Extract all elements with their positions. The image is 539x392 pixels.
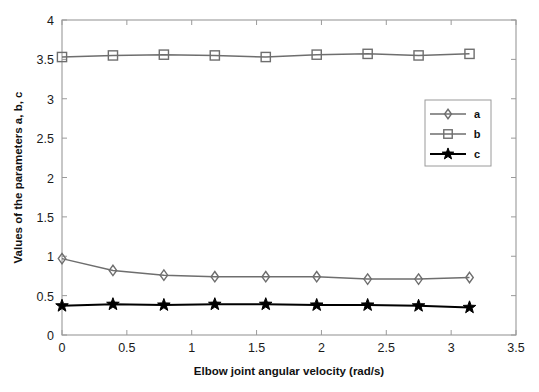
legend-label-c: c	[474, 148, 480, 160]
marker-star	[361, 298, 374, 310]
marker-star	[209, 298, 222, 310]
x-tick-label: 0.5	[118, 341, 135, 355]
series-c	[56, 298, 476, 313]
x-tick-label: 2	[318, 341, 325, 355]
chart-legend: abc	[425, 100, 491, 166]
line-chart: 00.511.522.533.500.511.522.533.54Elbow j…	[0, 0, 539, 392]
legend-label-b: b	[474, 128, 481, 140]
y-tick-label: 0	[47, 329, 54, 343]
series-line-b	[62, 54, 470, 57]
marker-star	[259, 298, 272, 310]
x-axis-title: Elbow joint angular velocity (rad/s)	[194, 365, 385, 377]
x-tick-label: 1.5	[248, 341, 265, 355]
marker-star	[158, 298, 171, 310]
series-b	[57, 49, 474, 61]
series-a	[58, 253, 473, 284]
plot-frame	[62, 20, 516, 335]
legend-box	[425, 100, 491, 166]
marker-star	[107, 298, 120, 310]
y-tick-label: 0.5	[37, 290, 54, 304]
y-tick-label: 1.5	[37, 211, 54, 225]
x-tick-label: 3.5	[507, 341, 524, 355]
x-tick-label: 1	[188, 341, 195, 355]
y-tick-label: 3	[47, 93, 54, 107]
marker-star	[310, 298, 323, 310]
x-tick-label: 2.5	[378, 341, 395, 355]
y-tick-label: 2.5	[37, 132, 54, 146]
series-line-a	[62, 259, 470, 279]
y-tick-label: 3.5	[37, 53, 54, 67]
y-tick-label: 2	[47, 172, 54, 186]
chart-figure: 00.511.522.533.500.511.522.533.54Elbow j…	[0, 0, 539, 392]
y-tick-label: 1	[47, 250, 54, 264]
marker-star	[463, 301, 476, 313]
y-axis-title: Values of the parameters a, b, c	[12, 91, 24, 264]
marker-star	[412, 299, 425, 311]
x-tick-label: 0	[59, 341, 66, 355]
x-tick-label: 3	[448, 341, 455, 355]
y-tick-label: 4	[47, 14, 54, 28]
legend-label-a: a	[474, 108, 481, 120]
